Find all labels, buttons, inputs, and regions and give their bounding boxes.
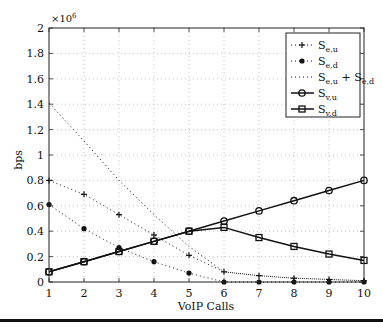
- y-tick-label: 0.4: [27, 225, 45, 238]
- x-tick-label: 7: [256, 287, 263, 300]
- bottom-rule: [0, 319, 383, 322]
- y-tick-label: 1: [37, 149, 44, 162]
- series-s-e-u-s-e-d: [49, 103, 364, 281]
- series-s-v-d: [46, 224, 367, 274]
- y-tick-label: 1.2: [27, 124, 45, 137]
- y-tick-label: 0.6: [27, 200, 45, 213]
- y-tick-label: 0: [37, 276, 44, 289]
- x-axis-label: VoIP Calls: [177, 300, 235, 313]
- legend: Se,uSe,dSe,u + Se,dSv,uSv,d: [286, 33, 374, 118]
- series-s-v-u: [46, 177, 367, 275]
- line-chart: 1234567891000.20.40.60.811.21.41.61.82 ×…: [0, 0, 383, 330]
- x-tick-label: 2: [81, 287, 88, 300]
- x-tick-label: 6: [221, 287, 228, 300]
- y-tick-label: 2: [37, 22, 44, 35]
- y-tick-label: 1.8: [27, 47, 45, 60]
- x-tick-label: 8: [291, 287, 298, 300]
- series-s-e-d: [46, 202, 366, 285]
- data-series: [46, 103, 367, 285]
- y-axis-label: bps: [12, 150, 25, 170]
- x-tick-label: 3: [116, 287, 123, 300]
- x-tick-label: 9: [326, 287, 333, 300]
- x-tick-label: 4: [151, 287, 158, 300]
- x-tick-label: 5: [186, 287, 193, 300]
- y-tick-label: 0.2: [27, 251, 45, 264]
- x-tick-label: 10: [357, 287, 371, 300]
- y-tick-label: 1.6: [27, 73, 45, 86]
- y-multiplier: ×106: [51, 12, 77, 24]
- y-tick-label: 0.8: [27, 174, 45, 187]
- y-tick-label: 1.4: [27, 98, 45, 111]
- x-tick-label: 1: [46, 287, 53, 300]
